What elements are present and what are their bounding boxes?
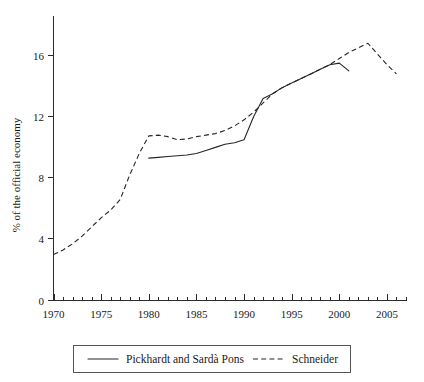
x-tick-label-1985: 1985 bbox=[185, 308, 208, 320]
x-tick-label-1980: 1980 bbox=[138, 308, 161, 320]
x-axis-tick-labels: 19701975198019851990199520002005 bbox=[43, 308, 399, 320]
y-tick-label-8: 8 bbox=[39, 172, 45, 184]
y-tick-label-12: 12 bbox=[33, 111, 44, 123]
x-tick-label-2005: 2005 bbox=[376, 308, 399, 320]
y-axis-ticks: 0 4 8 12 16 bbox=[33, 50, 54, 307]
x-tick-label-2000: 2000 bbox=[328, 308, 351, 320]
y-tick-0: 0 bbox=[39, 295, 54, 307]
y-tick-label-0: 0 bbox=[39, 295, 45, 307]
y-tick-label-16: 16 bbox=[33, 50, 45, 62]
y-tick-16: 16 bbox=[33, 50, 54, 62]
x-tick-label-1975: 1975 bbox=[90, 308, 113, 320]
legend-label-pickhardt-sarda-pons: Pickhardt and Sardà Pons bbox=[126, 353, 244, 365]
y-tick-12: 12 bbox=[33, 111, 54, 123]
series-line-pickhardt-sarda-pons bbox=[149, 63, 349, 158]
y-tick-4: 4 bbox=[39, 233, 54, 245]
legend-label-schneider: Schneider bbox=[292, 353, 338, 365]
x-tick-label-1995: 1995 bbox=[281, 308, 304, 320]
chart-legend: Pickhardt and Sardà Pons Schneider bbox=[74, 346, 351, 373]
x-tick-label-1970: 1970 bbox=[43, 308, 66, 320]
series-line-schneider bbox=[54, 43, 397, 254]
y-tick-label-4: 4 bbox=[39, 233, 45, 245]
chart-figure: % of the official economy 0 4 8 12 bbox=[0, 0, 424, 382]
y-tick-8: 8 bbox=[39, 172, 54, 184]
x-axis-ticks bbox=[55, 294, 407, 301]
x-tick-label-1990: 1990 bbox=[233, 308, 256, 320]
y-axis-title: % of the official economy bbox=[10, 117, 22, 232]
line-chart: % of the official economy 0 4 8 12 bbox=[0, 0, 424, 382]
